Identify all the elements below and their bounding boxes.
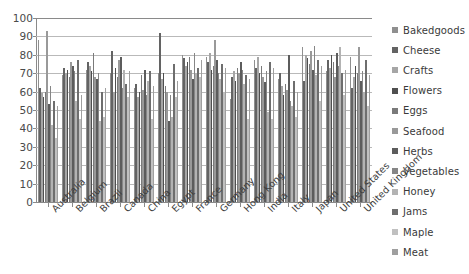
legend-swatch-icon <box>392 148 398 154</box>
legend-item[interactable]: Honey <box>392 186 436 198</box>
legend-label: Seafood <box>403 126 444 137</box>
legend-item[interactable]: Cheese <box>392 44 441 56</box>
legend-label: Flowers <box>403 85 442 96</box>
y-tick-label: 0 <box>0 197 33 207</box>
bar-chart: 0102030405060708090100 AustraliaBelgiumB… <box>0 0 469 274</box>
legend-label: Maple <box>403 227 434 238</box>
legend-item[interactable]: Maple <box>392 226 434 238</box>
legend-swatch-icon <box>392 229 398 235</box>
legend-item[interactable]: Vegetables <box>392 165 459 177</box>
legend-label: Honey <box>403 186 436 197</box>
bar <box>297 92 299 202</box>
legend-label: Herbs <box>403 146 433 157</box>
legend-swatch-icon <box>392 67 398 73</box>
y-tick-label: 100 <box>0 13 33 23</box>
legend-swatch-icon <box>392 249 398 255</box>
legend-label: Cheese <box>403 45 441 56</box>
legend-label: Jams <box>403 206 427 217</box>
legend-item[interactable]: Eggs <box>392 105 428 117</box>
y-tick-label: 30 <box>0 142 33 152</box>
legend-label: Meat <box>403 247 428 258</box>
bar <box>225 68 227 202</box>
legend-label: Vegetables <box>403 166 459 177</box>
legend-swatch-icon <box>392 27 398 33</box>
y-tick-label: 80 <box>0 50 33 60</box>
legend-label: Eggs <box>403 105 428 116</box>
bar <box>345 70 347 202</box>
bars-layer <box>36 18 372 203</box>
legend-swatch-icon <box>392 108 398 114</box>
y-tick-label: 40 <box>0 123 33 133</box>
legend-item[interactable]: Flowers <box>392 85 442 97</box>
legend-swatch-icon <box>392 209 398 215</box>
y-tick-label: 70 <box>0 68 33 78</box>
legend-swatch-icon <box>392 189 398 195</box>
y-axis: 0102030405060708090100 <box>0 0 33 274</box>
legend-swatch-icon <box>392 168 398 174</box>
legend-item[interactable]: Jams <box>392 206 427 218</box>
chart-legend: BakedgoodsCheeseCraftsFlowersEggsSeafood… <box>392 24 469 274</box>
legend-item[interactable]: Herbs <box>392 145 433 157</box>
legend-swatch-icon <box>392 88 398 94</box>
legend-item[interactable]: Crafts <box>392 64 433 76</box>
legend-item[interactable]: Seafood <box>392 125 444 137</box>
y-tick-label: 90 <box>0 31 33 41</box>
legend-swatch-icon <box>392 47 398 53</box>
legend-label: Crafts <box>403 65 433 76</box>
plot-area <box>36 18 372 203</box>
bar <box>201 60 203 202</box>
x-axis-labels: AustraliaBelgiumBrazilCanadaChinaEgyptFr… <box>36 203 372 274</box>
y-tick-label: 20 <box>0 160 33 170</box>
legend-item[interactable]: Bakedgoods <box>392 24 465 36</box>
y-tick-label: 60 <box>0 87 33 97</box>
legend-label: Bakedgoods <box>403 25 465 36</box>
legend-item[interactable]: Meat <box>392 246 428 258</box>
bar <box>57 106 59 202</box>
legend-swatch-icon <box>392 128 398 134</box>
bar <box>129 71 131 202</box>
bar <box>153 86 155 202</box>
bar <box>177 81 179 202</box>
y-tick-label: 50 <box>0 105 33 115</box>
bar <box>321 66 323 202</box>
y-tick-label: 10 <box>0 179 33 189</box>
